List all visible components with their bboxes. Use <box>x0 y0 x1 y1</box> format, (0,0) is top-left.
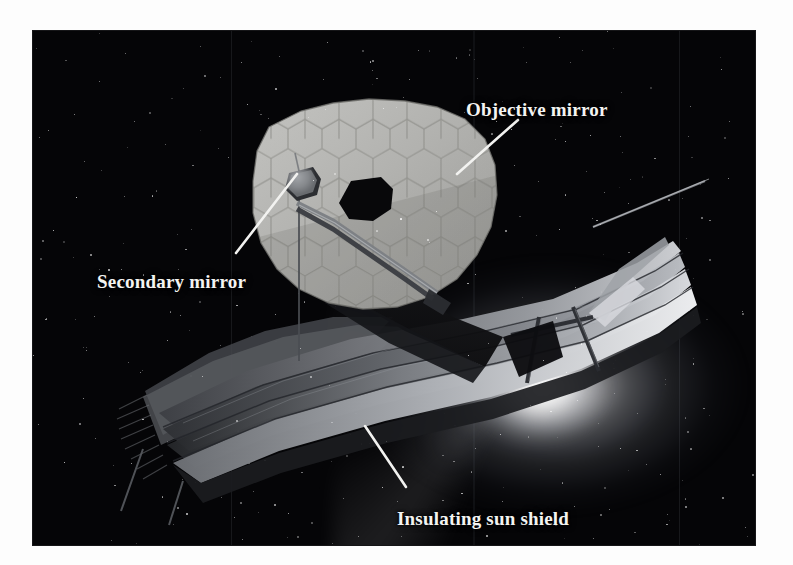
objective-mirror <box>243 91 513 321</box>
figure-page: Objective mirror Secondary mirror Insula… <box>0 0 793 565</box>
label-insulating-sun-shield: Insulating sun shield <box>397 508 569 530</box>
label-objective-mirror: Objective mirror <box>466 99 608 121</box>
label-secondary-mirror: Secondary mirror <box>97 271 246 293</box>
telescope-illustration-plate: Objective mirror Secondary mirror Insula… <box>33 31 755 545</box>
